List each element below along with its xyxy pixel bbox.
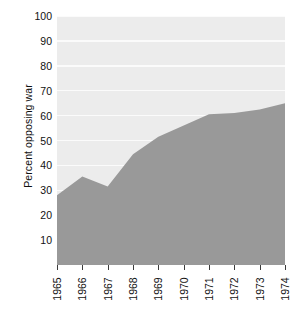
x-tick-label: 1968 xyxy=(128,277,139,300)
area-fill-shape xyxy=(57,103,285,265)
x-tick-mark xyxy=(108,265,109,270)
y-axis-tick-labels: 102030405060708090100 xyxy=(20,0,52,317)
y-tick-label: 20 xyxy=(20,210,52,221)
x-tick-label: 1966 xyxy=(77,277,88,300)
x-tick-mark xyxy=(260,265,261,270)
caption-fragment xyxy=(8,309,148,317)
y-tick-label: 80 xyxy=(20,61,52,72)
x-tick-label: 1969 xyxy=(153,277,164,300)
plot-panel xyxy=(57,16,285,265)
x-tick-mark xyxy=(234,265,235,270)
y-tick-label: 90 xyxy=(20,36,52,47)
y-tick-label: 100 xyxy=(20,11,52,22)
y-tick-label: 30 xyxy=(20,185,52,196)
area-series-plot xyxy=(57,16,285,265)
x-tick-mark xyxy=(82,265,83,270)
y-tick-label: 10 xyxy=(20,235,52,246)
area-chart-figure: Percent opposing war 1020304050607080901… xyxy=(0,0,300,317)
y-tick-label: 50 xyxy=(20,135,52,146)
x-tick-label: 1967 xyxy=(102,277,113,300)
x-tick-mark xyxy=(285,265,286,270)
x-tick-mark xyxy=(158,265,159,270)
x-tick-mark xyxy=(133,265,134,270)
x-tick-label: 1965 xyxy=(52,277,63,300)
y-tick-label: 70 xyxy=(20,85,52,96)
x-tick-label: 1971 xyxy=(204,277,215,300)
x-tick-mark xyxy=(209,265,210,270)
y-tick-label: 60 xyxy=(20,110,52,121)
x-tick-label: 1973 xyxy=(254,277,265,300)
x-tick-label: 1974 xyxy=(280,277,291,300)
x-tick-label: 1972 xyxy=(229,277,240,300)
y-tick-label: 40 xyxy=(20,160,52,171)
x-tick-mark xyxy=(184,265,185,270)
x-tick-label: 1970 xyxy=(178,277,189,300)
x-axis-tick-labels: 1965196619671968196919701971197219731974 xyxy=(57,271,285,311)
x-tick-mark xyxy=(57,265,58,270)
